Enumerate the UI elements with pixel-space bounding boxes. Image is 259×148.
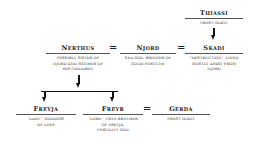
- node-name: Nerthus: [46, 44, 110, 52]
- divider: [16, 114, 76, 115]
- node-desc: of love: [16, 123, 76, 129]
- node-desc: Njord: [185, 67, 243, 73]
- node-desc: Frost Giant: [185, 21, 243, 27]
- node-desc: good fortune: [120, 62, 176, 68]
- node-desc: Frost Giant: [152, 117, 210, 123]
- divider: [185, 53, 243, 54]
- node-njord: Njord Sea god, bringer of good fortune: [120, 44, 176, 67]
- node-name: Thiassi: [185, 9, 243, 17]
- marriage-symbol: =: [109, 43, 117, 53]
- node-skadi: Skadi "Destruction", lived mostly apart …: [185, 44, 243, 73]
- divider: [46, 53, 110, 54]
- divider: [83, 114, 143, 115]
- divider: [185, 18, 243, 19]
- node-desc: "Destruction", lived: [185, 56, 243, 62]
- divider: [152, 114, 210, 115]
- node-name: Skadi: [185, 44, 243, 52]
- node-thiassi: Thiassi Frost Giant: [185, 9, 243, 27]
- node-name: Gerda: [152, 105, 210, 113]
- node-freyja: Freyja "Lady", goddess of love: [16, 105, 76, 128]
- sibling-bar: [41, 91, 118, 92]
- arrow-down-icon: [211, 35, 215, 40]
- arrow-down-icon: [110, 97, 114, 102]
- node-freyr: Freyr "Lord", twin brother of Freyja, fe…: [83, 105, 143, 134]
- node-nerthus: Nerthus Possibly sister of Njord and mot…: [46, 44, 110, 73]
- node-name: Freyja: [16, 105, 76, 113]
- node-desc: fertility god: [83, 128, 143, 134]
- arrow-down-icon: [42, 97, 46, 102]
- marriage-symbol: =: [143, 104, 151, 114]
- divider: [120, 53, 176, 54]
- arrow-down-icon: [76, 83, 80, 88]
- node-desc: his children: [46, 67, 110, 73]
- node-desc: "Lord", twin brother: [83, 117, 143, 123]
- node-name: Njord: [120, 44, 176, 52]
- node-name: Freyr: [83, 105, 143, 113]
- node-gerda: Gerda Frost Giant: [152, 105, 210, 123]
- node-desc: Sea god, bringer of: [120, 56, 176, 62]
